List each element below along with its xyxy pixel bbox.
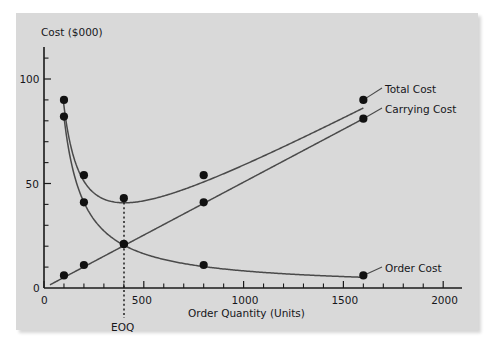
data-point	[80, 171, 88, 179]
series-label-total-cost: Total Cost	[385, 84, 436, 95]
x-tick-label-0: 0	[41, 295, 48, 306]
x-axis-title: Order Quantity (Units)	[188, 308, 305, 319]
data-point	[359, 115, 367, 123]
series-label-carrying-cost: Carrying Cost	[385, 104, 456, 115]
y-tick-label-100: 100	[19, 74, 39, 85]
chart-plot-area	[0, 0, 495, 342]
data-point	[60, 96, 68, 104]
x-axis-ticks	[44, 281, 443, 288]
x-tick-label-2000: 2000	[431, 295, 458, 306]
eoq-label: EOQ	[111, 322, 134, 333]
data-point	[359, 271, 367, 279]
series-markers	[60, 96, 368, 280]
data-point	[80, 198, 88, 206]
data-point	[60, 271, 68, 279]
chart-figure: Cost ($000) Order Quantity (Units) EOQ T…	[0, 0, 495, 342]
y-tick-label-0: 0	[33, 283, 40, 294]
data-point	[200, 198, 208, 206]
series-label-order-cost: Order Cost	[385, 263, 442, 274]
curve-total-cost	[63, 101, 363, 203]
y-axis-ticks	[44, 58, 51, 267]
data-point	[120, 240, 128, 248]
data-point	[80, 261, 88, 269]
data-point	[200, 171, 208, 179]
data-point	[120, 194, 128, 202]
y-tick-label-50: 50	[26, 179, 39, 190]
x-tick-label-1500: 1500	[331, 295, 358, 306]
data-point	[200, 261, 208, 269]
y-axis-title: Cost ($000)	[41, 27, 103, 38]
data-point	[359, 96, 367, 104]
data-point	[60, 113, 68, 121]
series-curves	[50, 101, 363, 285]
x-tick-label-1000: 1000	[232, 295, 259, 306]
x-tick-label-500: 500	[132, 295, 152, 306]
